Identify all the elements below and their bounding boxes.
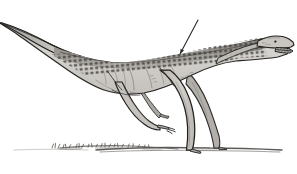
torso	[2, 24, 289, 95]
eye	[274, 40, 276, 42]
dorsal-scute-pointer	[180, 20, 198, 54]
dinosaur-illustration	[0, 0, 297, 174]
illustration-canvas	[0, 0, 297, 174]
open-jaw	[275, 48, 293, 54]
